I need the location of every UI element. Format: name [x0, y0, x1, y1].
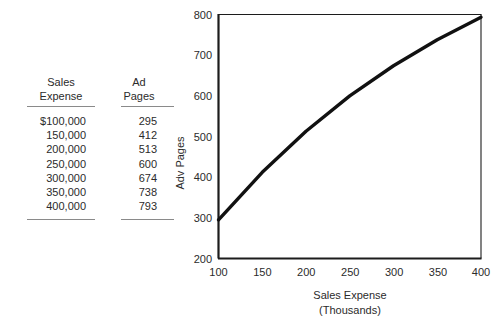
cell-ad-pages: 513	[104, 142, 174, 156]
x-tick-label: 200	[297, 266, 315, 278]
table-row: 350,000 738	[18, 185, 174, 199]
data-table: Sales Expense Ad Pages $100,000 295 150,…	[18, 76, 174, 220]
x-axis-tick-labels: 100 150 200 250 300 350 400	[209, 266, 490, 278]
cell-ad-pages: 295	[104, 114, 174, 128]
header-rule-ad-pages	[121, 106, 174, 107]
chart-axes	[218, 14, 482, 259]
table-body: $100,000 295 150,000 412 200,000 513 250…	[18, 114, 174, 213]
cell-sales-expense: 400,000	[18, 199, 104, 213]
cell-sales-expense: 350,000	[18, 185, 104, 199]
x-axis-title: Sales Expense	[313, 289, 386, 301]
x-tick-label: 250	[341, 266, 359, 278]
line-chart: 800 700 600 500 400 300 200 100 150 200 …	[170, 0, 496, 324]
column-header-ad-pages-line1: Ad	[104, 76, 174, 90]
cell-sales-expense: $100,000	[18, 114, 104, 128]
column-header-sales-expense-line1: Sales	[18, 76, 104, 90]
column-header-sales-expense: Sales Expense	[18, 76, 104, 103]
x-tick-label: 150	[253, 266, 271, 278]
table-header-row: Sales Expense Ad Pages	[18, 76, 174, 103]
y-tick-label: 300	[194, 212, 212, 224]
column-header-ad-pages: Ad Pages	[104, 76, 174, 103]
x-axis-title-subtitle: (Thousands)	[319, 304, 381, 316]
x-tick-label: 350	[429, 266, 447, 278]
y-tick-label: 400	[194, 171, 212, 183]
cell-ad-pages: 738	[104, 185, 174, 199]
y-tick-label: 800	[194, 9, 212, 21]
y-tick-label: 200	[194, 253, 212, 265]
y-axis-tick-labels: 800 700 600 500 400 300 200	[194, 9, 212, 265]
cell-ad-pages: 412	[104, 128, 174, 142]
bottom-rule-ad-pages	[121, 219, 174, 220]
x-tick-label: 100	[209, 266, 227, 278]
data-series-line	[219, 17, 482, 220]
cell-ad-pages: 793	[104, 199, 174, 213]
x-tick-label: 400	[472, 266, 490, 278]
table-bottom-divider	[18, 219, 174, 220]
column-header-ad-pages-line2: Pages	[104, 90, 174, 104]
y-axis-title: Adv Pages	[174, 136, 186, 190]
table-header-divider	[18, 106, 174, 107]
bottom-rule-sales-expense	[27, 219, 95, 220]
cell-sales-expense: 250,000	[18, 157, 104, 171]
column-header-sales-expense-line2: Expense	[18, 90, 104, 104]
x-tick-label: 300	[385, 266, 403, 278]
cell-sales-expense: 200,000	[18, 142, 104, 156]
y-tick-label: 700	[194, 49, 212, 61]
table-row: 200,000 513	[18, 142, 174, 156]
header-rule-sales-expense	[27, 106, 95, 107]
cell-sales-expense: 300,000	[18, 171, 104, 185]
table-row: 300,000 674	[18, 171, 174, 185]
table-row: 250,000 600	[18, 157, 174, 171]
table-row: 150,000 412	[18, 128, 174, 142]
cell-sales-expense: 150,000	[18, 128, 104, 142]
cell-ad-pages: 674	[104, 171, 174, 185]
y-tick-label: 500	[194, 131, 212, 143]
table-row: 400,000 793	[18, 199, 174, 213]
table-row: $100,000 295	[18, 114, 174, 128]
cell-ad-pages: 600	[104, 157, 174, 171]
y-tick-label: 600	[194, 90, 212, 102]
